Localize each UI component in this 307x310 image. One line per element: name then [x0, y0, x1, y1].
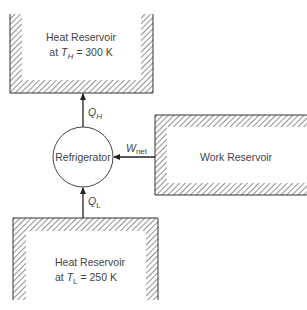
- refrigerator-diagram: Heat Reservoir at TH = 300 K Heat Reserv…: [0, 0, 307, 310]
- hot-reservoir-temperature: at TH = 300 K: [49, 46, 112, 61]
- cold-reservoir-temperature: at TL = 250 K: [55, 271, 117, 286]
- refrigerator-device: Refrigerator: [53, 127, 113, 187]
- refrigerator-label: Refrigerator: [55, 151, 111, 163]
- cold-reservoir: Heat Reservoir at TL = 250 K: [13, 218, 158, 300]
- work-reservoir: Work Reservoir: [155, 115, 307, 195]
- work-input-flow: Wnet: [114, 142, 155, 157]
- work-reservoir-label: Work Reservoir: [200, 151, 273, 163]
- heat-rejected-flow: QH: [83, 94, 102, 127]
- hot-reservoir-title: Heat Reservoir: [46, 31, 117, 43]
- q-cold-label: QL: [88, 195, 101, 210]
- hot-reservoir: Heat Reservoir at TH = 300 K: [10, 14, 153, 93]
- q-hot-label: QH: [88, 106, 102, 121]
- cold-reservoir-title: Heat Reservoir: [55, 256, 126, 268]
- w-net-label: Wnet: [126, 142, 148, 156]
- heat-absorbed-flow: QL: [83, 188, 101, 218]
